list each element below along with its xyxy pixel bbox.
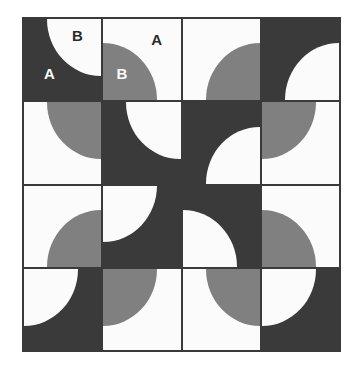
tile-r2-c3 [262, 186, 339, 267]
tile-r2-c1 [103, 186, 180, 267]
tile-r1-c0 [24, 102, 101, 183]
tile-r3-c1 [103, 269, 180, 350]
quarter-circle-icon [47, 210, 101, 267]
quarter-circle-icon [103, 43, 157, 100]
quarter-circle-icon [47, 102, 101, 159]
quarter-circle-icon [262, 210, 316, 267]
label-a-1: A [44, 66, 55, 81]
tile-r2-c0 [24, 186, 101, 267]
quarter-circle-icon [206, 127, 260, 184]
tile-r0-c2 [183, 19, 260, 100]
quarter-circle-icon [183, 210, 237, 267]
tile-r0-c1: AB [103, 19, 180, 100]
quarter-circle-icon [103, 269, 157, 326]
label-a-2: A [151, 32, 162, 47]
label-b-1: B [72, 28, 83, 43]
quarter-circle-icon [262, 102, 316, 159]
tile-r3-c0 [24, 269, 101, 350]
tile-r1-c2 [183, 102, 260, 183]
quarter-circle-icon [285, 43, 339, 100]
tile-r3-c2 [183, 269, 260, 350]
label-b-2: B [116, 66, 127, 81]
quarter-circle-icon [126, 102, 180, 159]
quarter-circle-icon [24, 269, 78, 326]
quarter-circle-icon [206, 43, 260, 100]
quarter-circle-icon [103, 186, 157, 243]
tile-r0-c3 [262, 19, 339, 100]
tile-r0-c0: AB [24, 19, 101, 100]
quarter-circle-icon [206, 269, 260, 326]
quarter-circle-icon [262, 269, 316, 326]
tile-r1-c3 [262, 102, 339, 183]
tile-r2-c2 [183, 186, 260, 267]
tile-r3-c3 [262, 269, 339, 350]
tile-r1-c1 [103, 102, 180, 183]
tiling-figure: ABAB [22, 17, 341, 352]
